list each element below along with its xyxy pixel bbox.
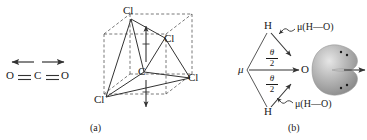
half-angle-numerator-top: θ bbox=[266, 48, 278, 57]
half-angle-denominator-top: 2 bbox=[266, 59, 278, 68]
water-half-angle-label-bottom: θ 2 bbox=[266, 74, 278, 94]
ccl4-chlorine-upper-right-label: Cl bbox=[164, 33, 174, 44]
water-bond-dipole-label-top: μ(H—O) bbox=[297, 22, 333, 32]
water-oxygen-label: O bbox=[301, 64, 309, 75]
water-resultant-dipole-label: μ bbox=[238, 64, 244, 75]
co2-right-oxygen-label: O bbox=[61, 70, 69, 81]
chemistry-figure: O C O Cl Cl C Cl Cl (a) H H O μ θ 2 θ 2 … bbox=[0, 0, 367, 140]
panel-b-caption: (b) bbox=[288, 123, 300, 133]
water-label-pointers bbox=[277, 29, 295, 104]
co2-carbon-label: C bbox=[34, 70, 41, 81]
water-hydrogen-top-label: H bbox=[264, 20, 272, 31]
co2-left-oxygen-label: O bbox=[6, 70, 14, 81]
water-bond-dipole-label-bottom: μ(H—O) bbox=[295, 99, 331, 109]
ccl4-chlorine-top-label: Cl bbox=[123, 5, 133, 16]
ccl4-cube-edges bbox=[104, 14, 192, 94]
water-hydrogen-bottom-label: H bbox=[264, 106, 272, 117]
ccl4-carbon-label: C bbox=[138, 66, 145, 77]
panel-a-caption: (a) bbox=[90, 123, 101, 133]
ccl4-chlorine-right-label: Cl bbox=[188, 72, 198, 83]
water-half-angle-label-top: θ 2 bbox=[266, 48, 278, 68]
ccl4-chlorine-lower-left-label: Cl bbox=[94, 94, 104, 105]
half-angle-denominator-bottom: 2 bbox=[266, 85, 278, 94]
half-angle-numerator-bottom: θ bbox=[266, 74, 278, 83]
ccl4-bonds bbox=[106, 19, 190, 97]
